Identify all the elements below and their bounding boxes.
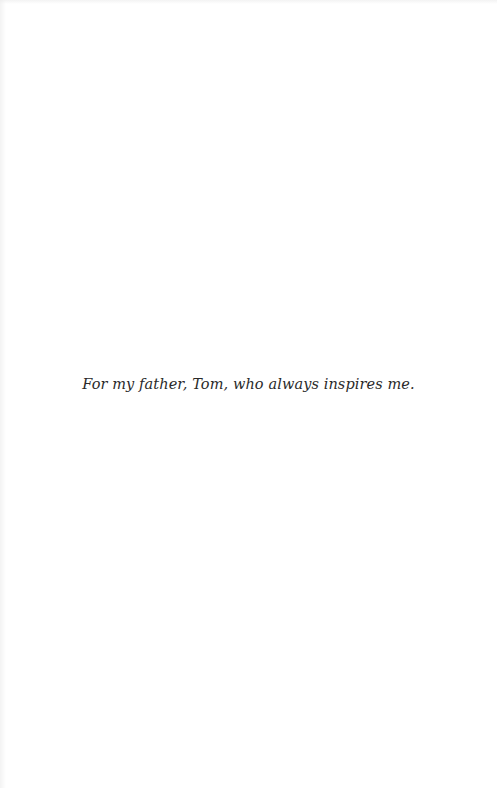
book-page: For my father, Tom, who always inspires … — [0, 0, 497, 788]
scan-edge-left — [0, 0, 6, 788]
scan-edge-top — [0, 0, 497, 4]
dedication-text: For my father, Tom, who always inspires … — [0, 376, 497, 392]
